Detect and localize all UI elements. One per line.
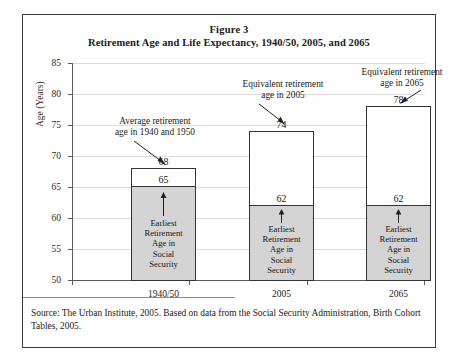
figure-title-block: Figure 3 Retirement Age and Life Expecta… bbox=[23, 23, 435, 50]
inner-line-1: Earliest bbox=[367, 224, 430, 234]
inner-line-5: Security bbox=[367, 265, 430, 275]
annotation-2005-line2: age in 2005 bbox=[203, 90, 363, 101]
y-tick-label-80: 80 bbox=[52, 90, 62, 99]
bar-shaded-1940-50: 65 Earliest Retirement Age in Social Sec… bbox=[132, 186, 195, 280]
y-tick-55: 55 bbox=[68, 249, 73, 250]
inner-line-5: Security bbox=[250, 265, 313, 275]
x-tick-label-2065: 2065 bbox=[351, 289, 446, 299]
bar-split-label-1940-50: 65 bbox=[132, 174, 195, 185]
annotation-2065-line2: age in 2065 bbox=[322, 78, 459, 89]
chart-inner-region: 85 80 75 70 65 60 55 50 bbox=[72, 63, 425, 281]
y-tick-label-85: 85 bbox=[52, 59, 62, 68]
y-tick-label-65: 65 bbox=[52, 183, 62, 192]
inner-line-1: Earliest bbox=[132, 218, 195, 228]
y-tick-label-55: 55 bbox=[52, 245, 62, 254]
inner-line-3: Age in bbox=[250, 244, 313, 254]
inner-line-5: Security bbox=[132, 259, 195, 269]
y-tick-65: 65 bbox=[68, 187, 73, 188]
annotation-1940-50-line1: Average retirement bbox=[80, 116, 230, 127]
chart-plot-area: 85 80 75 70 65 60 55 50 bbox=[72, 63, 425, 281]
y-tick-85: 85 bbox=[68, 63, 73, 64]
source-separator bbox=[23, 297, 235, 298]
inner-line-1: Earliest bbox=[250, 224, 313, 234]
up-arrow-icon-2065 bbox=[394, 209, 403, 223]
inner-line-3: Age in bbox=[132, 238, 195, 248]
bar-1940-50[interactable]: 68 65 Earliest Retirement Age in Social … bbox=[131, 168, 196, 281]
inner-line-4: Social bbox=[250, 255, 313, 265]
y-tick-label-70: 70 bbox=[52, 152, 62, 161]
inner-line-2: Retirement bbox=[250, 234, 313, 244]
bar-inner-label-1940-50: Earliest Retirement Age in Social Securi… bbox=[132, 218, 195, 269]
inner-line-2: Retirement bbox=[132, 228, 195, 238]
inner-line-4: Social bbox=[132, 249, 195, 259]
bar-split-label-2065: 62 bbox=[367, 193, 430, 204]
y-axis-title: Age (Years) bbox=[35, 81, 45, 127]
y-tick-80: 80 bbox=[68, 94, 73, 95]
y-tick-label-60: 60 bbox=[52, 214, 62, 223]
y-tick-label-50: 50 bbox=[52, 276, 62, 285]
bar-shaded-2005: 62 Earliest Retirement Age in Social Sec… bbox=[250, 205, 313, 280]
annotation-arrow-1940-50 bbox=[132, 139, 172, 169]
inner-line-3: Age in bbox=[367, 244, 430, 254]
x-tick-label-2005: 2005 bbox=[234, 289, 329, 299]
bar-2065[interactable]: 78 62 Earliest Retirement Age in Social … bbox=[366, 106, 431, 281]
bar-2005[interactable]: 74 62 Earliest Retirement Age in Social … bbox=[249, 131, 314, 281]
y-tick-label-75: 75 bbox=[52, 121, 62, 130]
annotation-2065: Equivalent retirement age in 2065 bbox=[322, 67, 459, 89]
inner-line-4: Social bbox=[367, 255, 430, 265]
annotation-arrow-2005 bbox=[257, 102, 293, 130]
annotation-1940-50: Average retirement age in 1940 and 1950 bbox=[80, 116, 230, 138]
bar-inner-label-2065: Earliest Retirement Age in Social Securi… bbox=[367, 224, 430, 275]
up-arrow-icon-1940-50 bbox=[159, 192, 168, 216]
figure-frame: Figure 3 Retirement Age and Life Expecta… bbox=[22, 14, 436, 348]
y-tick-70: 70 bbox=[68, 156, 73, 157]
annotation-2065-line1: Equivalent retirement bbox=[322, 67, 459, 78]
inner-line-2: Retirement bbox=[367, 234, 430, 244]
bar-inner-label-2005: Earliest Retirement Age in Social Securi… bbox=[250, 224, 313, 275]
y-tick-75: 75 bbox=[68, 125, 73, 126]
gridline-85 bbox=[72, 63, 425, 64]
bar-split-label-2005: 62 bbox=[250, 193, 313, 204]
bar-shaded-2065: 62 Earliest Retirement Age in Social Sec… bbox=[367, 205, 430, 280]
x-tick-left-edge bbox=[72, 280, 73, 285]
figure-number: Figure 3 bbox=[23, 23, 435, 36]
up-arrow-icon-2005 bbox=[277, 209, 286, 223]
annotation-arrow-2065 bbox=[395, 88, 423, 106]
y-tick-60: 60 bbox=[68, 218, 73, 219]
source-note: Source: The Urban Institute, 2005. Based… bbox=[31, 307, 429, 333]
annotation-1940-50-line2: age in 1940 and 1950 bbox=[80, 127, 230, 138]
page-title: Retirement Age and Life Expectancy, 1940… bbox=[23, 36, 435, 50]
